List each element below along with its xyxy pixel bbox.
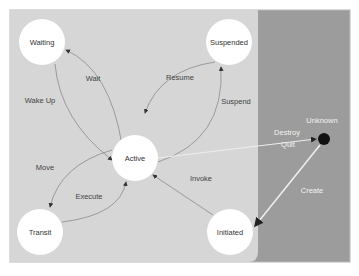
label-move: Move — [36, 163, 54, 172]
node-suspended-label: Suspended — [210, 38, 248, 47]
label-destroy: Destroy — [274, 128, 300, 137]
label-suspend: Suspend — [221, 97, 251, 106]
label-invoke: Invoke — [190, 174, 212, 183]
node-waiting-label: Waiting — [30, 38, 55, 47]
node-transit[interactable]: Transit — [17, 209, 63, 255]
node-initiated-label: Initiated — [217, 228, 243, 237]
label-wake-up: Wake Up — [25, 96, 56, 105]
label-create: Create — [301, 186, 324, 195]
node-initiated[interactable]: Initiated — [207, 209, 253, 255]
label-wait: Wait — [86, 74, 102, 83]
node-unknown-label: Unknown — [306, 116, 337, 125]
state-diagram: Waiting Suspended Active Transit Initiat… — [0, 0, 359, 276]
node-active-label: Active — [125, 154, 145, 163]
node-waiting[interactable]: Waiting — [19, 19, 65, 65]
node-active[interactable]: Active — [112, 135, 158, 181]
label-execute: Execute — [75, 192, 102, 201]
node-transit-label: Transit — [29, 228, 53, 237]
label-quit: Quit — [281, 140, 296, 149]
node-suspended[interactable]: Suspended — [206, 19, 252, 65]
label-resume: Resume — [166, 73, 194, 82]
